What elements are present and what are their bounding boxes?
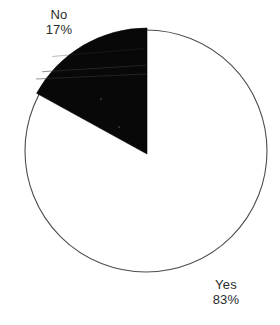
pie-chart-canvas	[0, 0, 280, 325]
pie-label-yes-value: 83%	[195, 293, 257, 308]
pie-label-no: No 17%	[28, 8, 90, 37]
pie-label-yes-name: Yes	[195, 278, 257, 293]
pie-chart-figure: No 17% Yes 83%	[0, 0, 280, 325]
pie-label-no-name: No	[28, 8, 90, 23]
pie-label-no-value: 17%	[28, 23, 90, 38]
pie-label-yes: Yes 83%	[195, 278, 257, 307]
